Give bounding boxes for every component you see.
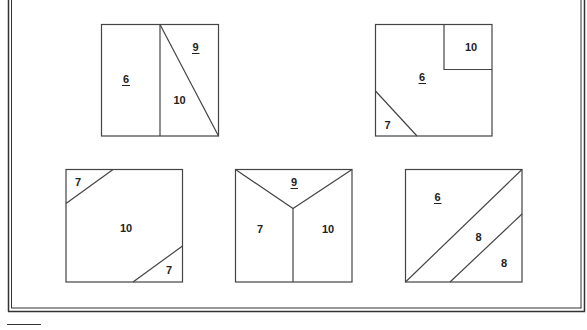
diagram-canvas: 6 9 10 10 6 7 7 10 7 9 7 10 6 (0, 0, 587, 330)
region-label: 7 (166, 264, 172, 276)
region-label: 7 (384, 119, 390, 131)
region-label: 10 (173, 94, 185, 106)
region-label: 7 (75, 176, 81, 188)
region-label: 7 (257, 223, 263, 235)
square-5: 6 8 8 (406, 170, 523, 283)
region-label: 9 (192, 41, 198, 53)
region-label: 8 (501, 257, 507, 269)
square-2: 10 6 7 (376, 25, 493, 137)
region-label: 10 (465, 41, 477, 53)
region-label: 8 (475, 231, 481, 243)
region-label: 6 (419, 71, 425, 83)
region-label: 10 (120, 222, 132, 234)
square-1: 6 9 10 (102, 25, 219, 137)
region-label: 10 (322, 223, 334, 235)
region-label: 6 (123, 73, 129, 85)
region-label: 9 (291, 176, 297, 188)
outer-frame (8, 0, 585, 312)
square-3: 7 10 7 (66, 170, 183, 283)
square-4: 9 7 10 (236, 170, 353, 283)
region-label: 6 (434, 191, 440, 203)
